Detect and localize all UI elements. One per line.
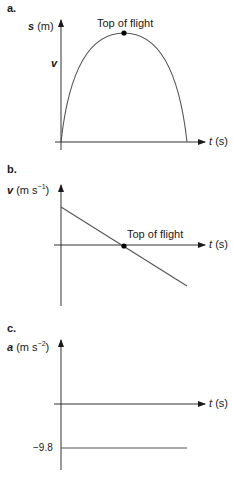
graph-a-top-point [121, 30, 126, 35]
panel-a-label: a. [7, 2, 16, 14]
graph-c-y-axis-label: a (m s−2) [7, 340, 49, 353]
graph-c-x-axis-label: t (s) [209, 397, 228, 409]
graph-b [54, 185, 205, 306]
graph-c [54, 340, 205, 470]
graph-a-v-symbol: v [51, 57, 57, 69]
graph-a-curve [61, 33, 187, 142]
graph-b-x-axis-label: t (s) [209, 238, 228, 250]
graph-b-y-unit-close: ) [46, 184, 50, 196]
graph-a-x-axis-label: t (s) [209, 135, 228, 147]
graph-a-y-symbol: s [28, 20, 34, 32]
graph-a-annotation: Top of flight [97, 17, 153, 29]
graph-b-y-symbol: v [7, 184, 13, 196]
graph-a [55, 20, 205, 150]
graph-a-x-symbol: t [209, 135, 212, 147]
graph-b-x-unit: (s) [215, 238, 228, 250]
graph-b-y-unit: (m s [16, 184, 37, 196]
graph-c-y-unit: (m s [16, 341, 37, 353]
graph-b-y-axis-label: v (m s−1) [7, 183, 49, 196]
graphs-canvas [0, 0, 233, 495]
graph-c-y-symbol: a [7, 341, 13, 353]
panel-c-label: c. [7, 322, 16, 334]
graph-a-x-unit: (s) [215, 135, 228, 147]
graph-a-y-axis-label: s (m) [28, 20, 54, 32]
graph-a-y-unit: (m) [37, 20, 54, 32]
graph-b-annotation: Top of flight [127, 228, 183, 240]
graph-c-x-symbol: t [209, 397, 212, 409]
graph-a-v-label: v [51, 57, 57, 69]
graph-c-y-unit-close: ) [46, 341, 50, 353]
graph-b-y-unit-exp: −1 [38, 183, 46, 190]
graph-c-tick-label: −9.8 [33, 442, 53, 453]
graph-b-x-symbol: t [209, 238, 212, 250]
panel-b-label: b. [7, 163, 17, 175]
graph-b-top-point [121, 243, 126, 248]
graph-c-x-unit: (s) [215, 397, 228, 409]
graph-c-y-unit-exp: −2 [38, 340, 46, 347]
